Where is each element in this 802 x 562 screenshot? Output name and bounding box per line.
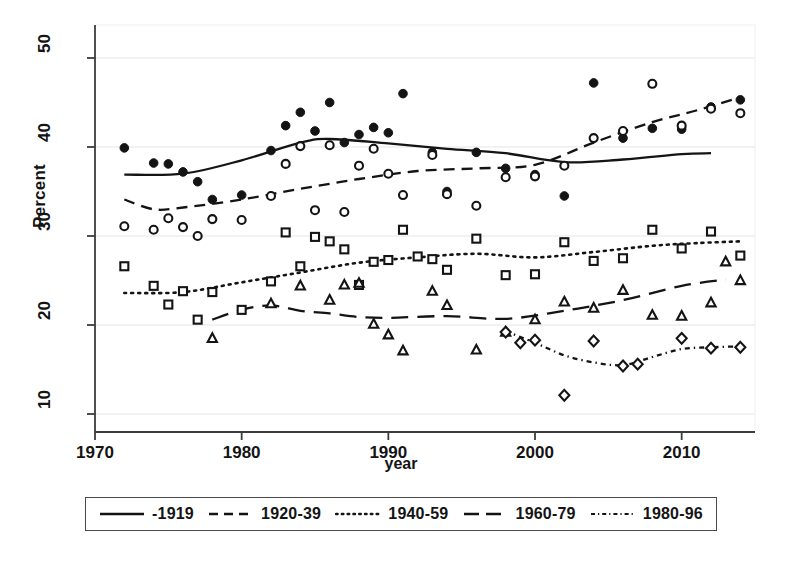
- y-tick-label: 10: [35, 390, 55, 436]
- legend-label: 1980-96: [643, 505, 703, 523]
- x-tick-label: 2010: [642, 443, 722, 463]
- y-tick-label: 30: [35, 212, 55, 258]
- legend-item[interactable]: 1920-39: [208, 505, 321, 523]
- y-tick-label: 20: [35, 301, 55, 347]
- chart-legend: -1919 1920-39 1940-59 1960-79 1980-96: [85, 497, 717, 531]
- legend-key-long-dash: [463, 508, 509, 520]
- legend-key-solid: [99, 508, 145, 520]
- legend-label: 1920-39: [261, 505, 321, 523]
- x-axis-label: year: [361, 455, 441, 473]
- legend-label: -1919: [152, 505, 194, 523]
- chart-svg: [0, 0, 802, 480]
- legend-label: 1940-59: [388, 505, 448, 523]
- legend-item[interactable]: 1960-79: [463, 505, 576, 523]
- x-tick-label: 1980: [202, 443, 282, 463]
- x-tick-label: 1970: [55, 443, 135, 463]
- legend-key-dashed: [208, 508, 254, 520]
- chart-plot-area: Percent 5040302010 19701980199020002010 …: [0, 0, 802, 480]
- x-tick-label: 2000: [495, 443, 575, 463]
- y-tick-label: 50: [35, 34, 55, 80]
- legend-key-dash-dot: [590, 508, 636, 520]
- legend-item[interactable]: -1919: [99, 505, 194, 523]
- legend-key-dotted: [335, 508, 381, 520]
- legend-label: 1960-79: [516, 505, 576, 523]
- legend-item[interactable]: 1940-59: [335, 505, 448, 523]
- series-data-markers: [120, 79, 745, 401]
- legend-item[interactable]: 1980-96: [590, 505, 703, 523]
- chart-page: Percent 5040302010 19701980199020002010 …: [0, 0, 802, 562]
- y-tick-label: 40: [35, 123, 55, 169]
